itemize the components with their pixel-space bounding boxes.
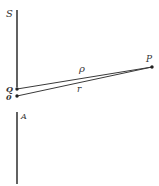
label-a: A <box>20 112 27 121</box>
point-o-dot <box>15 94 18 97</box>
geometry-diagram: S A Q 0 P ρ r <box>0 0 159 186</box>
label-s: S <box>6 8 13 19</box>
label-r: r <box>77 84 82 94</box>
point-p-dot <box>150 65 153 68</box>
label-o: 0 <box>6 92 12 102</box>
label-rho: ρ <box>78 63 85 74</box>
point-q-dot <box>15 87 18 90</box>
label-p: P <box>145 54 153 64</box>
